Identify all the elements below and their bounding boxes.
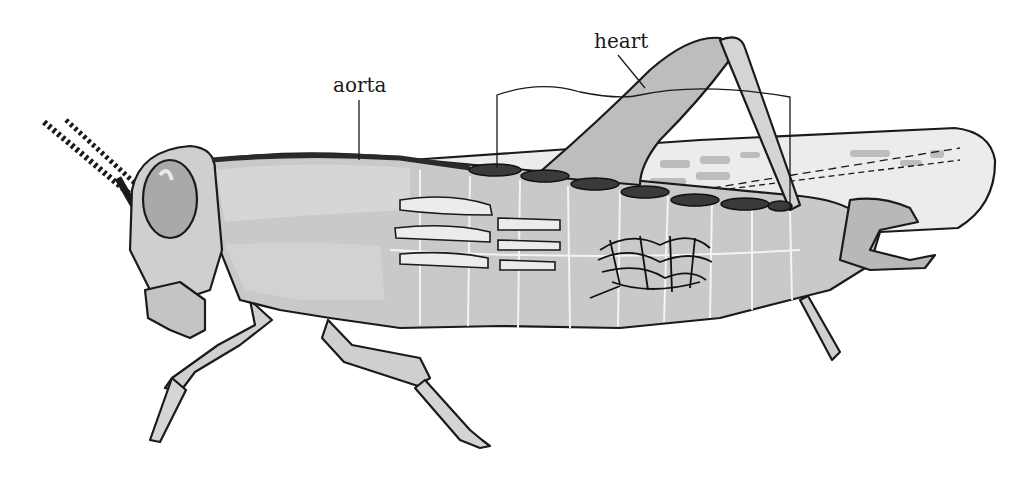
label-heart: heart: [594, 29, 648, 53]
middle-leg: [322, 320, 490, 448]
hind-tibia-lower: [800, 296, 840, 360]
grasshopper-diagram: aorta heart: [0, 0, 1018, 478]
antennae: [44, 120, 138, 206]
heart-leader: [618, 55, 645, 88]
label-aorta: aorta: [333, 73, 387, 97]
